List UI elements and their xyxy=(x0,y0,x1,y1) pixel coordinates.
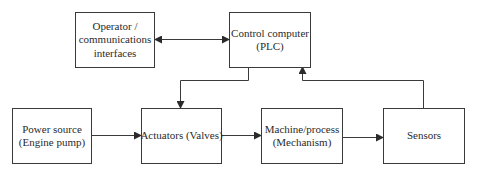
block-label: Actuators (Valves) xyxy=(140,129,222,143)
block-label: interfaces xyxy=(94,47,137,61)
block-label: (Engine pump) xyxy=(19,136,85,150)
block-label: Machine/process xyxy=(265,123,340,137)
edge-plc-actuators xyxy=(181,67,249,108)
block-label: Sensors xyxy=(407,129,441,143)
actuators-block: Actuators (Valves) xyxy=(141,108,222,164)
sensors-block: Sensors xyxy=(383,108,465,164)
edge-sensors-plc xyxy=(303,67,424,108)
operator-interfaces-block: Operator / communications interfaces xyxy=(75,12,155,68)
control-computer-plc-block: Control computer (PLC) xyxy=(229,12,311,68)
block-label: Power source xyxy=(22,123,82,137)
block-label: Operator / xyxy=(93,20,138,34)
block-label: Control computer xyxy=(231,27,309,41)
power-source-block: Power source (Engine pump) xyxy=(12,108,92,164)
machine-process-block: Machine/process (Mechanism) xyxy=(261,108,343,164)
block-label: (PLC) xyxy=(256,40,284,54)
control-system-diagram: Operator / communications interfaces Con… xyxy=(0,0,478,170)
block-label: (Mechanism) xyxy=(273,136,332,150)
block-label: communications xyxy=(79,33,152,47)
